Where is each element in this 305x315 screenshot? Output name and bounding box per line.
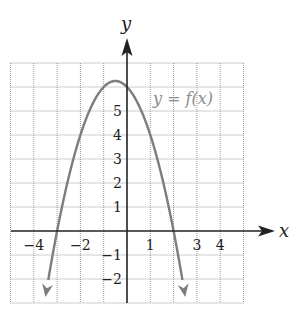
- x-tick-label: 3: [192, 237, 201, 253]
- x-tick-label: −4: [23, 237, 44, 253]
- x-axis-label: x: [279, 220, 289, 241]
- curve-arrow-right-icon: [178, 283, 189, 297]
- function-graph: x y −4−213454321−1−2 y = f(x): [0, 0, 305, 315]
- y-tick-label: 3: [113, 151, 122, 167]
- y-tick-label: −1: [101, 247, 122, 263]
- curve-arrow-left-icon: [42, 283, 53, 297]
- y-tick-label: 2: [113, 175, 122, 191]
- y-tick-label: 1: [113, 199, 122, 215]
- x-tick-label: 1: [146, 237, 155, 253]
- function-label: y = f(x): [152, 89, 213, 108]
- tick-labels: −4−213454321−1−2: [23, 103, 224, 287]
- y-tick-label: 4: [113, 127, 122, 143]
- x-tick-label: −2: [70, 237, 91, 253]
- y-axis-label: y: [120, 13, 132, 34]
- x-tick-label: 4: [216, 237, 225, 253]
- y-tick-label: 5: [113, 103, 122, 119]
- y-tick-label: −2: [101, 271, 122, 287]
